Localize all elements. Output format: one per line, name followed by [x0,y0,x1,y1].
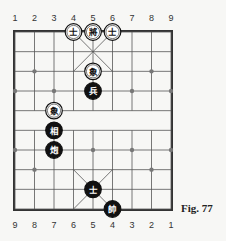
position-marker [32,69,36,73]
file-label: 3 [51,13,56,23]
file-label: 4 [110,220,115,230]
file-label: 4 [71,13,76,23]
file-label: 2 [149,220,154,230]
file-label: 7 [51,220,56,230]
piece-red-general: 帥 [104,201,121,218]
piece-label: 象 [50,106,59,116]
piece-label: 帥 [108,204,117,214]
position-marker [13,89,17,93]
top-file-labels: 123456789 [12,13,173,23]
file-label: 5 [90,220,95,230]
position-marker [130,148,134,152]
position-marker [52,89,56,93]
file-label: 9 [12,220,17,230]
piece-black-advisor: 士 [104,24,121,41]
file-label: 3 [129,220,134,230]
file-label: 5 [90,13,95,23]
bottom-file-labels: 987654321 [12,220,173,230]
piece-red-cannon: 炮 [46,142,63,159]
position-marker [130,89,134,93]
file-label: 7 [129,13,134,23]
piece-label: 士 [89,185,98,195]
position-marker [149,69,153,73]
file-label: 2 [32,13,37,23]
piece-black-elephant: 象 [85,63,102,80]
piece-label: 將 [89,27,98,37]
position-marker [91,148,95,152]
piece-label: 士 [108,27,117,37]
file-label: 8 [32,220,37,230]
file-label: 1 [168,220,173,230]
position-marker [169,148,173,152]
piece-label: 象 [89,67,98,77]
file-label: 9 [168,13,173,23]
position-marker [149,167,153,171]
file-label: 6 [110,13,115,23]
xiangqi-board-diagram: 123456789 士將士象兵象相炮士帥 987654321 Fig. 77 [0,0,226,241]
piece-red-minister: 相 [46,122,63,139]
file-label: 1 [12,13,17,23]
piece-label: 士 [69,27,78,37]
piece-black-general: 將 [85,24,102,41]
position-marker [13,148,17,152]
figure-caption: Fig. 77 [181,202,213,214]
piece-label: 炮 [49,145,59,155]
position-marker [169,89,173,93]
piece-black-elephant: 象 [46,102,63,119]
piece-red-advisor: 士 [85,181,102,198]
pieces-layer: 士將士象兵象相炮士帥 [46,24,121,218]
file-label: 6 [71,220,76,230]
position-marker [32,167,36,171]
piece-red-soldier: 兵 [85,83,102,100]
file-label: 8 [149,13,154,23]
piece-black-advisor: 士 [65,24,82,41]
piece-label: 相 [50,126,59,136]
piece-label: 兵 [89,86,98,96]
